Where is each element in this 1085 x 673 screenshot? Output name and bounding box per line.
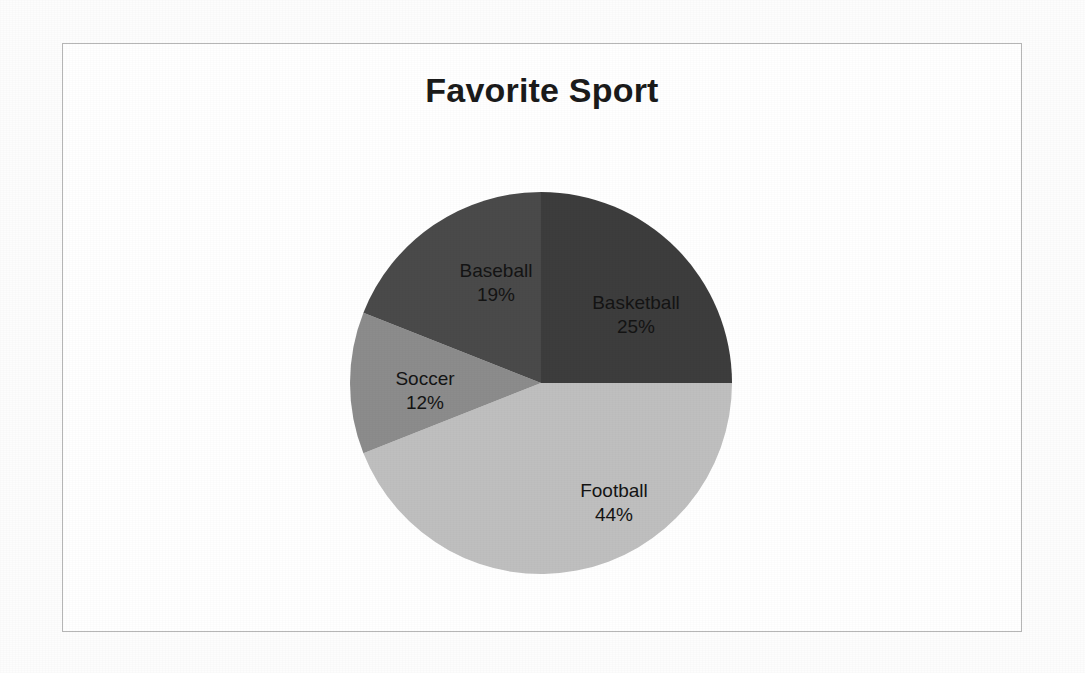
pie-chart: Basketball 25% Football 44% Soccer 12% B… — [349, 191, 733, 575]
pie-slice-group — [350, 192, 732, 574]
chart-frame: Favorite Sport Basketball 25% Football 4… — [62, 43, 1022, 632]
chart-title: Favorite Sport — [63, 71, 1021, 110]
page-canvas: Favorite Sport Basketball 25% Football 4… — [0, 0, 1085, 673]
pie-slice-basketball — [541, 192, 732, 383]
pie-svg — [349, 191, 733, 575]
